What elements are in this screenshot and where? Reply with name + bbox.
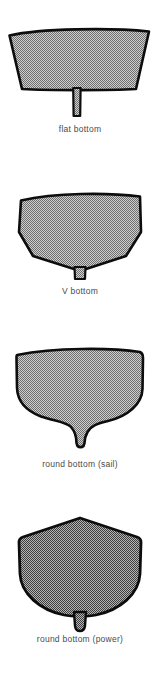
caption-flat-bottom: flat bottom	[0, 124, 160, 134]
figure-page: flat bottom V bottom round bottom (sail)…	[0, 0, 160, 690]
hull-figure-round-bottom-sail	[0, 342, 160, 454]
round-bottom-power-diagram	[0, 512, 160, 637]
caption-round-bottom-power: round bottom (power)	[0, 634, 160, 644]
hull-figure-flat-bottom	[0, 22, 160, 122]
round-bottom-sail-diagram	[0, 342, 160, 454]
hull-figure-round-bottom-power	[0, 512, 160, 637]
flat-bottom-diagram	[0, 22, 160, 122]
hull-figure-v-bottom	[0, 186, 160, 286]
flat-bottom-keel-fin	[73, 88, 80, 116]
caption-v-bottom: V bottom	[0, 286, 160, 296]
round-bottom-power-skeg-stub	[74, 612, 86, 631]
caption-round-bottom-sail: round bottom (sail)	[0, 459, 160, 469]
v-bottom-keel-stub	[75, 267, 86, 279]
v-bottom-hull-body	[19, 194, 141, 269]
v-bottom-diagram	[0, 186, 160, 286]
round-bottom-power-hull-body	[19, 518, 141, 616]
round-bottom-sail-hull-body	[17, 349, 144, 447]
flat-bottom-hull-body	[10, 29, 150, 90]
